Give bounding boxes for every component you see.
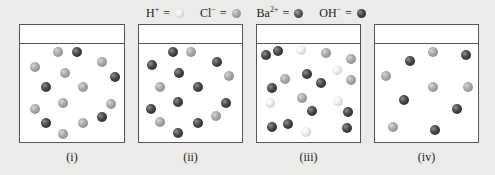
beaker-top-band [20, 25, 124, 44]
hydroxide-or-barium-ion-sphere-icon [147, 60, 157, 70]
hydroxide-or-barium-ion-sphere-icon [405, 56, 415, 66]
hydroxide-or-barium-ion-sphere-icon [168, 47, 178, 57]
hydrogen-ion-sphere-icon [265, 98, 275, 108]
legend-item-hydrogen: H+ = [146, 6, 184, 21]
hydroxide-or-barium-ion-sphere-icon [399, 95, 409, 105]
hydroxide-or-barium-ion-sphere-icon [342, 123, 352, 133]
hydroxide-or-barium-ion-sphere-icon [193, 118, 203, 128]
legend-charge: − [337, 5, 342, 14]
chloride-ion-sphere-icon [463, 82, 473, 92]
chloride-ion-sphere-icon [106, 99, 116, 109]
hydrogen-ion-sphere-icon [333, 96, 343, 106]
chloride-ion-sphere-icon [58, 98, 68, 108]
hydrogen-ion-sphere-icon [332, 65, 342, 75]
hydroxide-or-barium-ion-sphere-icon [193, 82, 203, 92]
legend-charge: − [211, 5, 216, 14]
panel-caption: (iii) [279, 150, 339, 165]
legend-equals: = [220, 6, 227, 21]
hydroxide-or-barium-ion-sphere-icon [173, 128, 183, 138]
hydroxide-or-barium-ion-sphere-icon [212, 57, 222, 67]
chloride-ion-sphere-icon [381, 71, 391, 81]
legend-symbol: H [146, 6, 155, 20]
hydroxide-or-barium-ion-sphere-icon [430, 125, 440, 135]
hydroxide-or-barium-ion-sphere-icon [173, 97, 183, 107]
panel-caption: (ii) [161, 150, 221, 165]
legend-symbol: Ba [257, 6, 270, 20]
hydrogen-ion-sphere-icon [296, 45, 306, 55]
chloride-ion-sphere-icon [97, 57, 107, 67]
hydroxide-or-barium-ion-sphere-icon [343, 107, 353, 117]
hydroxide-or-barium-ion-sphere-icon [41, 118, 51, 128]
chloride-ion-sphere-icon [211, 111, 221, 121]
legend-equals: = [163, 6, 170, 21]
beaker-panel [19, 24, 125, 143]
hydrogen-ion-sphere-icon [175, 9, 184, 18]
beaker-top-band [257, 25, 360, 44]
hydroxide-or-barium-ion-sphere-icon [316, 78, 326, 88]
barium-ion-sphere-icon [294, 9, 303, 18]
hydroxide-or-barium-ion-sphere-icon [267, 83, 277, 93]
legend: H+ = Cl− = Ba2+ = OH− = [146, 4, 382, 22]
hydroxide-or-barium-ion-sphere-icon [452, 104, 462, 114]
chloride-ion-sphere-icon [78, 118, 88, 128]
hydroxide-or-barium-ion-sphere-icon [146, 104, 156, 114]
chloride-ion-sphere-icon [155, 82, 165, 92]
hydroxide-ion-sphere-icon [357, 9, 366, 18]
hydroxide-or-barium-ion-sphere-icon [283, 119, 293, 129]
legend-charge: 2+ [270, 5, 279, 14]
chloride-ion-sphere-icon [30, 104, 40, 114]
legend-symbol: OH [319, 6, 336, 20]
hydroxide-or-barium-ion-sphere-icon [41, 82, 51, 92]
hydroxide-or-barium-ion-sphere-icon [110, 72, 120, 82]
legend-symbol: Cl [200, 6, 211, 20]
chloride-ion-sphere-icon [346, 75, 356, 85]
legend-item-chloride: Cl− = [200, 6, 241, 21]
chloride-ion-sphere-icon [280, 74, 290, 84]
beaker-panel [374, 24, 479, 143]
hydroxide-or-barium-ion-sphere-icon [221, 98, 231, 108]
chloride-ion-sphere-icon [346, 54, 356, 64]
legend-equals: = [345, 6, 352, 21]
beaker-top-band [139, 25, 242, 44]
beaker-top-band [375, 25, 478, 44]
chloride-ion-sphere-icon [321, 48, 331, 58]
legend-equals: = [282, 6, 289, 21]
chloride-ion-sphere-icon [297, 93, 307, 103]
chloride-ion-sphere-icon [60, 68, 70, 78]
hydroxide-or-barium-ion-sphere-icon [461, 50, 471, 60]
chloride-ion-sphere-icon [53, 47, 63, 57]
chloride-ion-sphere-icon [155, 117, 165, 127]
hydroxide-or-barium-ion-sphere-icon [174, 68, 184, 78]
chloride-ion-sphere-icon [224, 71, 234, 81]
hydroxide-or-barium-ion-sphere-icon [261, 50, 271, 60]
hydroxide-or-barium-ion-sphere-icon [72, 47, 82, 57]
chloride-ion-sphere-icon [428, 47, 438, 57]
hydroxide-or-barium-ion-sphere-icon [302, 69, 312, 79]
chloride-ion-sphere-icon [232, 9, 241, 18]
chloride-ion-sphere-icon [30, 62, 40, 72]
hydroxide-or-barium-ion-sphere-icon [97, 112, 107, 122]
hydrogen-ion-sphere-icon [301, 127, 311, 137]
panel-caption: (i) [42, 150, 102, 165]
chloride-ion-sphere-icon [186, 47, 196, 57]
hydroxide-or-barium-ion-sphere-icon [267, 122, 277, 132]
beaker-panel [138, 24, 243, 143]
chloride-ion-sphere-icon [58, 129, 68, 139]
hydroxide-or-barium-ion-sphere-icon [307, 106, 317, 116]
chloride-ion-sphere-icon [78, 82, 88, 92]
panel-caption: (iv) [397, 150, 457, 165]
legend-charge: + [155, 5, 160, 14]
hydroxide-or-barium-ion-sphere-icon [273, 46, 283, 56]
beaker-panel [256, 24, 361, 143]
legend-item-hydroxide: OH− = [319, 6, 366, 21]
legend-item-barium: Ba2+ = [257, 6, 304, 21]
chloride-ion-sphere-icon [388, 122, 398, 132]
chloride-ion-sphere-icon [428, 82, 438, 92]
